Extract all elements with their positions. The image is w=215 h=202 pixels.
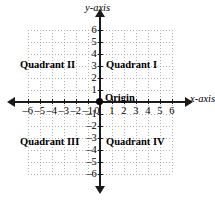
- y-axis-tick-label: –6: [83, 169, 97, 180]
- y-axis-tick: [98, 66, 103, 67]
- y-axis-tick: [98, 138, 103, 139]
- origin-label: Origin: [105, 92, 135, 103]
- y-axis-tick-label: 2: [83, 73, 97, 84]
- y-axis-tick: [98, 90, 103, 91]
- x-axis-label: x-axis: [190, 93, 215, 104]
- coordinate-plane-figure: –6–5–4–3–2–10123456654321–1–2–3–4–5–6 y-…: [0, 0, 215, 202]
- x-axis-tick-label: 6: [165, 106, 179, 117]
- origin-point-marker: [96, 98, 103, 105]
- x-axis-tick: [148, 99, 149, 104]
- x-axis-tick: [88, 99, 89, 104]
- quadrant-one-label: Quadrant I: [106, 59, 157, 70]
- quadrant-four-label: Quadrant IV: [106, 136, 165, 147]
- y-axis-tick: [98, 42, 103, 43]
- quadrant-two-label: Quadrant II: [20, 59, 75, 70]
- y-axis-tick: [98, 162, 103, 163]
- x-axis-tick: [136, 99, 137, 104]
- y-axis-tick-label: 4: [83, 49, 97, 60]
- x-axis-tick: [52, 99, 53, 104]
- y-axis-tick: [98, 126, 103, 127]
- x-axis-tick: [160, 99, 161, 104]
- y-axis-tick-label: 5: [83, 37, 97, 48]
- y-axis-tick-label: 3: [83, 61, 97, 72]
- quadrant-three-label: Quadrant III: [20, 136, 79, 147]
- x-axis-left-arrow-icon: [7, 97, 15, 107]
- y-axis-tick: [98, 150, 103, 151]
- x-axis-tick: [40, 99, 41, 104]
- y-axis-tick: [98, 174, 103, 175]
- y-axis-tick-label: 6: [83, 25, 97, 36]
- y-axis-tick: [98, 78, 103, 79]
- y-axis-tick-label: –5: [83, 157, 97, 168]
- y-axis-tick-label: –1: [83, 109, 97, 120]
- y-axis-tick-label: 1: [83, 85, 97, 96]
- y-axis-tick-label: –3: [83, 133, 97, 144]
- x-axis-tick: [28, 99, 29, 104]
- y-axis-tick: [98, 54, 103, 55]
- y-axis-tick-label: –4: [83, 145, 97, 156]
- y-axis-label: y-axis: [85, 2, 110, 13]
- y-axis-tick-label: –2: [83, 121, 97, 132]
- x-axis-tick: [76, 99, 77, 104]
- x-axis-tick: [172, 99, 173, 104]
- x-axis-tick: [64, 99, 65, 104]
- y-axis-down-arrow-icon: [95, 186, 105, 194]
- y-axis-tick: [98, 30, 103, 31]
